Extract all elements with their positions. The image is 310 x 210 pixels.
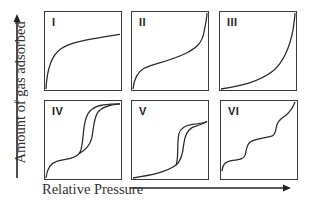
x-axis-label: Relative Pressure: [42, 181, 143, 198]
isotherm-curve-type-1: [45, 12, 121, 90]
panel-label: VI: [228, 105, 239, 117]
isotherm-panel-type-3: III: [219, 11, 297, 91]
x-axis-arrow: [130, 185, 291, 192]
isotherm-panel-type-4: IV: [44, 100, 122, 180]
y-axis-label: Amount of gas adsorbed: [12, 34, 29, 164]
panel-label: IV: [52, 105, 63, 117]
panel-label: I: [52, 16, 56, 28]
isotherm-panel-type-1: I: [44, 11, 122, 91]
isotherm-panel-type-6: VI: [220, 100, 298, 180]
panel-label: III: [227, 16, 238, 28]
isotherm-panel-type-2: II: [131, 11, 209, 91]
panel-label: V: [139, 105, 147, 117]
panel-label: II: [139, 16, 146, 28]
isotherm-panel-type-5: V: [131, 100, 209, 180]
